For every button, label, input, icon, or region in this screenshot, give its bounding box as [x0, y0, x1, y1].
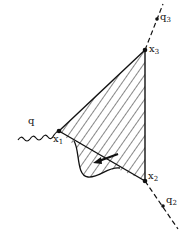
label-q2: q2	[166, 195, 177, 207]
vertex-x2-dot	[143, 179, 148, 184]
label-q: q	[28, 116, 34, 126]
label-x3: x3	[149, 44, 159, 56]
hatched-region	[59, 50, 145, 181]
label-q3: q3	[160, 12, 171, 24]
vertex-x3-dot	[143, 48, 148, 53]
momentum-marker-q3	[155, 17, 159, 21]
label-x2: x2	[148, 171, 158, 183]
momentum-marker-q2	[161, 204, 165, 208]
label-x1: x1	[53, 134, 63, 146]
